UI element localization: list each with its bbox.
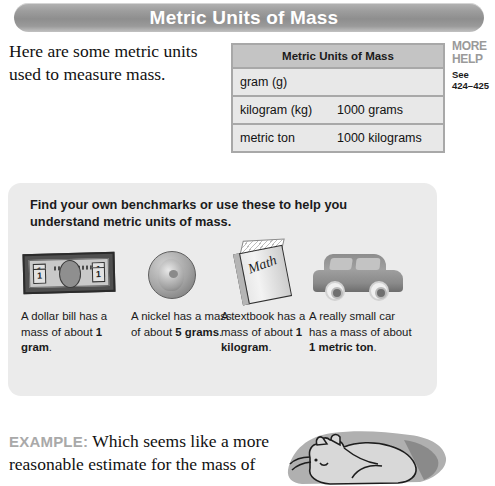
benchmark-caption: A really small car has a mass of about 1… (309, 309, 413, 356)
page-title-bar: Metric Units of Mass (14, 3, 484, 32)
example-block: EXAMPLE: Which seems like a more reasona… (9, 430, 271, 476)
page-title: Metric Units of Mass (14, 3, 484, 32)
benchmark-item-textbook: Math A textbook has a mass of about 1 ki… (221, 239, 321, 389)
caption-period: . (268, 341, 271, 353)
car-window-front (329, 258, 353, 270)
caption-text: A really small car has a mass of about (309, 310, 412, 338)
car-icon (309, 239, 409, 305)
coin-highlight (169, 270, 178, 278)
caption-period: . (374, 341, 377, 353)
more-help-line1: MORE (452, 40, 495, 53)
table-cell-equivalent: 1000 kilograms (337, 131, 443, 145)
more-help-see-label: See (452, 69, 495, 80)
benchmark-item-car: A really small car has a mass of about 1… (309, 239, 409, 389)
caption-period: . (49, 341, 52, 353)
metric-units-table: Metric Units of Mass gram (g) kilogram (… (231, 43, 445, 153)
benchmark-item-dollar-bill: 1 1 1 1 A dollar bill has a mass of abou… (21, 239, 121, 389)
caption-value: 1 metric ton (309, 341, 374, 353)
table-cell-unit: kilogram (kg) (233, 103, 337, 117)
table-cell-unit: metric ton (233, 131, 337, 145)
bill-portrait (59, 260, 82, 289)
bill-corner-value: 1 (33, 269, 46, 284)
table-row: metric ton 1000 kilograms (233, 125, 443, 151)
textbook-icon: Math (221, 239, 321, 305)
more-help-sidebar: MORE HELP See 424–425 (452, 40, 495, 91)
caption-text: A dollar bill has a mass of about (21, 310, 107, 338)
table-row: kilogram (kg) 1000 grams (233, 97, 443, 123)
table-header: Metric Units of Mass (233, 45, 443, 67)
table-cell-equivalent: 1000 grams (337, 103, 443, 117)
dollar-bill-icon: 1 1 1 1 (21, 239, 121, 305)
car-wheel-front (325, 281, 345, 301)
table-cell-unit: gram (g) (233, 75, 337, 89)
benchmarks-heading: Find your own benchmarks or use these to… (30, 197, 420, 230)
cat-drawing-svg (286, 424, 486, 486)
cat-illustration (286, 424, 486, 486)
car-wheel-rear (369, 281, 389, 301)
example-label: EXAMPLE: (9, 433, 88, 450)
intro-paragraph: Here are some metric units used to measu… (9, 40, 224, 86)
more-help-page-reference: 424–425 (452, 80, 495, 91)
benchmark-caption: A nickel has a mass of about 5 grams. (131, 309, 235, 340)
caption-value: 5 grams (175, 326, 219, 338)
car-window-rear (355, 258, 380, 270)
cat-nose (314, 458, 317, 461)
benchmarks-columns: 1 1 1 1 A dollar bill has a mass of abou… (21, 239, 431, 389)
benchmark-item-nickel: A nickel has a mass of about 5 grams. (131, 239, 231, 389)
caption-text: A textbook has a mass of about (221, 310, 305, 338)
nickel-coin-icon (131, 239, 231, 305)
table-row: gram (g) (233, 69, 443, 95)
benchmarks-panel: Find your own benchmarks or use these to… (8, 183, 437, 396)
more-help-line2: HELP (452, 53, 495, 66)
bill-corner-value: 1 (92, 267, 105, 282)
benchmark-caption: A dollar bill has a mass of about 1 gram… (21, 309, 125, 356)
